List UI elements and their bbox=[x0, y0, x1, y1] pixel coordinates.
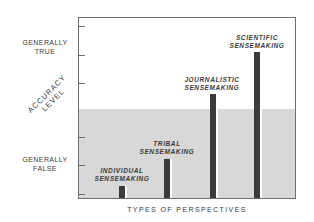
bar-label-line1: JOURNALISTIC bbox=[184, 76, 239, 84]
y-tick bbox=[79, 194, 85, 195]
y-tick bbox=[79, 137, 85, 138]
bar-journalistic bbox=[210, 94, 216, 198]
y-tick bbox=[79, 83, 85, 84]
bar-label-line2: SENSEMAKING bbox=[184, 84, 239, 92]
y-label-true-line2: TRUE bbox=[10, 47, 80, 56]
bar-individual bbox=[119, 186, 125, 198]
bar-label-line2: SENSEMAKING bbox=[140, 148, 195, 156]
bar-tribal bbox=[164, 159, 170, 198]
y-axis-title: ACCURACY LEVEL bbox=[22, 69, 77, 124]
bar-label-line1: INDIVIDUAL bbox=[95, 167, 150, 175]
x-axis-title: TYPES OF PERSPECTIVES bbox=[78, 206, 296, 213]
y-tick bbox=[79, 26, 85, 27]
y-label-generally-false: GENERALLY FALSE bbox=[10, 155, 80, 173]
bar-label-line2: SENSEMAKING bbox=[95, 175, 150, 183]
bar-label-journalistic: JOURNALISTIC SENSEMAKING bbox=[184, 76, 239, 92]
bar-label-line1: TRIBAL bbox=[140, 140, 195, 148]
bar-label-line2: SENSEMAKING bbox=[230, 42, 285, 50]
y-tick bbox=[79, 55, 85, 56]
bar-label-individual: INDIVIDUAL SENSEMAKING bbox=[95, 167, 150, 183]
bar-label-line1: SCIENTIFIC bbox=[230, 34, 285, 42]
y-label-false-line1: GENERALLY bbox=[10, 155, 80, 164]
plot-area: INDIVIDUAL SENSEMAKING TRIBAL SENSEMAKIN… bbox=[78, 17, 296, 199]
bar-label-tribal: TRIBAL SENSEMAKING bbox=[140, 140, 195, 156]
y-tick bbox=[79, 165, 85, 166]
y-label-generally-true: GENERALLY TRUE bbox=[10, 38, 80, 56]
y-label-false-line2: FALSE bbox=[10, 164, 80, 173]
bar-label-scientific: SCIENTIFIC SENSEMAKING bbox=[230, 34, 285, 50]
bar-scientific bbox=[254, 52, 260, 198]
y-label-true-line1: GENERALLY bbox=[10, 38, 80, 47]
